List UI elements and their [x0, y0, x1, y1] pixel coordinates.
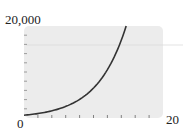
- plot-background: [24, 26, 163, 118]
- plot-area: [0, 0, 191, 129]
